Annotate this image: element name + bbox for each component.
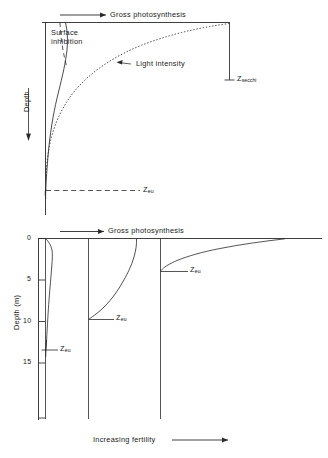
- profile-3-curve: [161, 239, 285, 272]
- profile-2-curve: [89, 239, 137, 320]
- profile-1-z-eu-label: Zeu: [60, 344, 71, 353]
- profile-2-z-eu-subscript: eu: [121, 316, 127, 322]
- y-tick-label-0: 0: [27, 234, 31, 241]
- surface-inhibition-label-line1: Surface: [51, 28, 78, 37]
- bottom-panel-y-axis-label: Depth (m): [12, 295, 21, 330]
- profile-3-z-eu-label: Zeu: [190, 265, 201, 274]
- top-z-eu-subscript: eu: [148, 188, 154, 194]
- profile-1-curve: [46, 239, 53, 351]
- profile-1-z-eu-subscript: eu: [65, 347, 71, 353]
- z-secchi-label: Zsecchi: [237, 74, 256, 83]
- top-panel-x-axis-label: Gross photosynthesis: [110, 10, 186, 19]
- top-light-intensity-curve: [46, 24, 229, 182]
- bottom-panel-x-axis-label: Gross photosynthesis: [108, 226, 184, 235]
- light-intensity-label: Light intensity: [136, 59, 185, 68]
- increasing-fertility-arrow: [172, 438, 228, 443]
- top-z-eu-label: Zeu: [143, 185, 154, 194]
- top-panel-y-axis-label: Depth: [22, 91, 31, 112]
- figure-container: Gross photosynthesis Depth Surface inhib…: [0, 0, 328, 458]
- bottom-x-axis-arrow: [60, 229, 104, 234]
- top-x-axis-arrow: [60, 13, 106, 18]
- top-gross-photosynthesis-curve: [46, 23, 68, 197]
- z-secchi-marker: [225, 23, 235, 80]
- y-tick-label-5: 5: [27, 275, 31, 282]
- y-tick-label-15: 15: [23, 358, 31, 365]
- increasing-fertility-label: Increasing fertility: [93, 435, 156, 444]
- y-tick-label-10: 10: [23, 317, 31, 324]
- light-intensity-leader: [117, 60, 132, 65]
- surface-inhibition-label-line2: inhibition: [51, 37, 83, 46]
- profile-2-z-eu-label: Zeu: [116, 313, 127, 322]
- z-secchi-subscript: secchi: [242, 77, 257, 83]
- bottom-panel-y-ticks: [39, 239, 46, 419]
- profile-3-z-eu-subscript: eu: [195, 268, 201, 274]
